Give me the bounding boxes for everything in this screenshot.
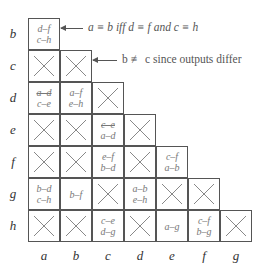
cell-f-a [28, 146, 60, 178]
implied-pair: b–d [29, 183, 59, 194]
implied-pair: a–d [93, 130, 123, 141]
x-mark-icon [29, 115, 59, 145]
implied-pair: a–d [29, 87, 59, 98]
implied-pair: c–e [29, 98, 59, 109]
row-label-c: c [3, 58, 23, 74]
row-label-b: b [3, 26, 23, 42]
implied-pair: e–f [93, 151, 123, 162]
annotation-ab: a ≡ b iff d ≡ f and c ≡ h [88, 21, 198, 33]
implied-pair: a–b [157, 162, 187, 173]
x-mark-icon [29, 51, 59, 81]
x-mark-icon [29, 147, 59, 177]
cell-d-a: a–dc–e [28, 82, 60, 114]
x-mark-icon [125, 115, 155, 145]
cell-e-b [60, 114, 92, 146]
col-label-a: a [34, 248, 54, 264]
implied-pair: a–b [125, 183, 155, 194]
implied-pair: c–f [157, 151, 187, 162]
x-mark-icon [61, 115, 91, 145]
implied-pair: c–e [93, 119, 123, 130]
implied-pair: d–f [29, 23, 59, 34]
cell-g-a: b–dc–h [28, 178, 60, 210]
col-label-c: c [98, 248, 118, 264]
cell-e-a [28, 114, 60, 146]
cell-d-c [92, 82, 124, 114]
x-mark-icon [61, 147, 91, 177]
cell-f-e: c–fa–b [156, 146, 188, 178]
implied-pair: d–g [93, 226, 123, 237]
cell-h-c: c–ed–g [92, 210, 124, 242]
x-mark-icon [29, 211, 59, 241]
col-label-g: g [226, 248, 246, 264]
implied-pair: c–h [29, 194, 59, 205]
cell-c-a [28, 50, 60, 82]
x-mark-icon [125, 147, 155, 177]
cell-g-d: a–be–h [124, 178, 156, 210]
row-label-f: f [3, 154, 23, 170]
implied-pair: c–h [29, 34, 59, 45]
implied-pair: e–h [125, 194, 155, 205]
x-mark-icon [221, 211, 251, 241]
x-mark-icon [61, 211, 91, 241]
implied-pair: c–f [189, 215, 219, 226]
x-mark-icon [189, 179, 219, 209]
implied-pair: b–f [61, 189, 91, 200]
cell-h-f: c–fb–g [188, 210, 220, 242]
implied-pair: a–f [61, 87, 91, 98]
row-label-h: h [3, 218, 23, 234]
col-label-e: e [162, 248, 182, 264]
cell-f-c: e–fb–d [92, 146, 124, 178]
x-mark-icon [93, 179, 123, 209]
cell-g-f [188, 178, 220, 210]
cell-g-b: b–f [60, 178, 92, 210]
cell-e-d [124, 114, 156, 146]
col-label-b: b [66, 248, 86, 264]
x-mark-icon [125, 211, 155, 241]
row-label-g: g [3, 186, 23, 202]
annotation-bc: b ≢ c since outputs differ [122, 53, 242, 65]
col-label-f: f [194, 248, 214, 264]
col-label-d: d [130, 248, 150, 264]
cell-h-d [124, 210, 156, 242]
cell-f-d [124, 146, 156, 178]
annotation-arrow-ab [61, 28, 83, 29]
cell-e-c: c–ea–d [92, 114, 124, 146]
implied-pair: b–d [93, 162, 123, 173]
x-mark-icon [93, 83, 123, 113]
cell-h-e: a–g [156, 210, 188, 242]
cell-f-b [60, 146, 92, 178]
cell-h-a [28, 210, 60, 242]
row-label-e: e [3, 122, 23, 138]
annotation-arrow-bc [93, 60, 117, 61]
x-mark-icon [157, 179, 187, 209]
cell-d-b: a–fe–h [60, 82, 92, 114]
cell-b-a: d–fc–h [28, 18, 60, 50]
cell-g-e [156, 178, 188, 210]
implied-pair: b–g [189, 226, 219, 237]
cell-g-c [92, 178, 124, 210]
cell-h-g [220, 210, 252, 242]
row-label-d: d [3, 90, 23, 106]
implied-pair: c–e [93, 215, 123, 226]
cell-c-b [60, 50, 92, 82]
implied-pair: e–h [61, 98, 91, 109]
implied-pair: a–g [157, 221, 187, 232]
cell-h-b [60, 210, 92, 242]
x-mark-icon [61, 51, 91, 81]
